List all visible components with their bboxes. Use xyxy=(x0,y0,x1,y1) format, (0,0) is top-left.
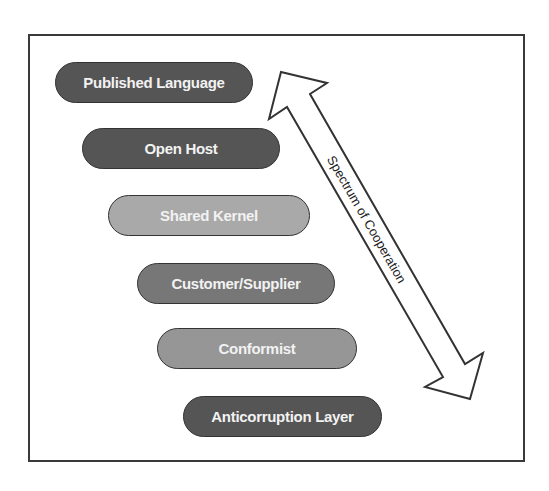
double-arrow-icon xyxy=(0,0,549,491)
